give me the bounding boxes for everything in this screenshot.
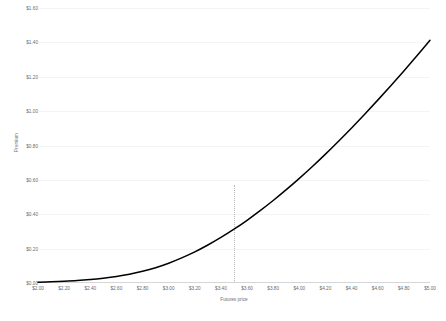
y-axis-tick-labels: $0.00$0.20$0.40$0.60$0.80$1.00$1.20$1.40… (0, 0, 40, 321)
y-tick-label: $1.00 (2, 109, 38, 114)
x-tick-label: $5.00 (410, 286, 446, 291)
y-tick-label: $0.80 (2, 143, 38, 148)
plot-area (38, 8, 430, 283)
x-axis-title: Futures price (38, 297, 430, 302)
premium-curve (38, 8, 430, 283)
y-tick-label: $1.20 (2, 74, 38, 79)
y-tick-label: $0.40 (2, 212, 38, 217)
y-tick-label: $0.00 (2, 281, 38, 286)
y-tick-label: $0.20 (2, 246, 38, 251)
chart-container: Premium $0.00$0.20$0.40$0.60$0.80$1.00$1… (0, 0, 446, 321)
y-tick-label: $1.40 (2, 40, 38, 45)
y-tick-label: $1.60 (2, 6, 38, 11)
y-tick-label: $0.60 (2, 177, 38, 182)
